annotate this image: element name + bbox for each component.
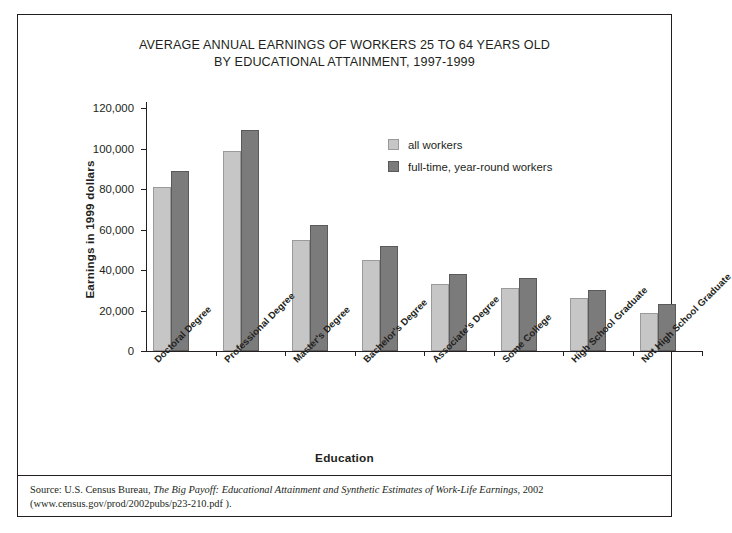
y-axis-tick-label: 120,000	[64, 102, 134, 114]
source-publication-title: The Big Payoff: Educational Attainment a…	[153, 484, 517, 495]
bar[interactable]	[223, 151, 241, 351]
chart-title-line-1: AVERAGE ANNUAL EARNINGS OF WORKERS 25 TO…	[139, 38, 550, 52]
legend-swatch-icon-all-workers	[388, 139, 399, 150]
x-axis-tick	[216, 351, 217, 356]
legend-item-all-workers: all workers	[388, 136, 552, 153]
legend-label-all-workers: all workers	[408, 139, 462, 151]
x-axis-tick	[355, 351, 356, 356]
y-axis-tick-label: 60,000	[64, 224, 134, 236]
chart-title: AVERAGE ANNUAL EARNINGS OF WORKERS 25 TO…	[18, 37, 671, 71]
chart-title-line-2: BY EDUCATIONAL ATTAINMENT, 1997-1999	[18, 54, 671, 71]
y-axis-tick-label: 80,000	[64, 183, 134, 195]
bar[interactable]	[153, 187, 171, 351]
x-axis-tick	[633, 351, 634, 356]
source-note: Source: U.S. Census Bureau, The Big Payo…	[30, 483, 661, 511]
legend-label-full-time-workers: full-time, year-round workers	[408, 161, 552, 173]
x-axis-tick	[285, 351, 286, 356]
y-axis-tick	[141, 351, 146, 352]
x-axis-tick	[494, 351, 495, 356]
x-axis-title: Education	[18, 451, 671, 465]
y-axis-tick-label: 20,000	[64, 305, 134, 317]
x-axis-tick	[702, 351, 703, 356]
y-axis-tick-label: 40,000	[64, 264, 134, 276]
legend-swatch-icon-full-time-workers	[388, 161, 399, 172]
source-prefix: Source: U.S. Census Bureau,	[30, 484, 153, 495]
bar[interactable]	[362, 260, 380, 351]
y-axis-tick-label: 0	[64, 345, 134, 357]
source-divider	[18, 475, 671, 476]
x-axis-tick	[563, 351, 564, 356]
x-axis-tick	[424, 351, 425, 356]
chart-figure: AVERAGE ANNUAL EARNINGS OF WORKERS 25 TO…	[17, 14, 672, 517]
y-axis-tick-label: 100,000	[64, 143, 134, 155]
bar[interactable]	[241, 130, 259, 351]
chart-legend: all workers full-time, year-round worker…	[388, 136, 552, 180]
legend-item-full-time-workers: full-time, year-round workers	[388, 158, 552, 175]
